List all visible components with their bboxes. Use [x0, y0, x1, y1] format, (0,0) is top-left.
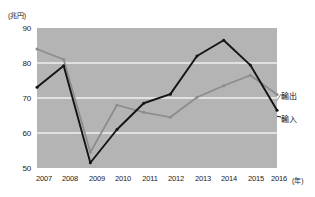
data-point	[116, 128, 119, 131]
data-point	[142, 111, 145, 114]
data-point	[62, 58, 65, 61]
data-point	[276, 109, 279, 112]
data-point	[36, 86, 39, 89]
chart-canvas	[0, 0, 315, 197]
data-point	[89, 161, 92, 164]
data-point	[62, 64, 65, 67]
data-point	[89, 151, 92, 154]
data-point	[249, 64, 252, 67]
data-point	[196, 55, 199, 58]
series-line-imports	[37, 40, 277, 163]
data-point	[222, 84, 225, 87]
data-point	[196, 96, 199, 99]
data-point	[169, 116, 172, 119]
leader-line-imports	[277, 116, 281, 117]
data-point	[169, 93, 172, 96]
trade-line-chart: (兆円) 90 80 70 60 50 2007 2008 2009 2010 …	[0, 0, 315, 197]
data-point	[142, 102, 145, 105]
data-point	[36, 48, 39, 51]
data-point	[249, 74, 252, 77]
data-point	[276, 93, 279, 96]
data-point	[116, 104, 119, 107]
data-point	[222, 39, 225, 42]
